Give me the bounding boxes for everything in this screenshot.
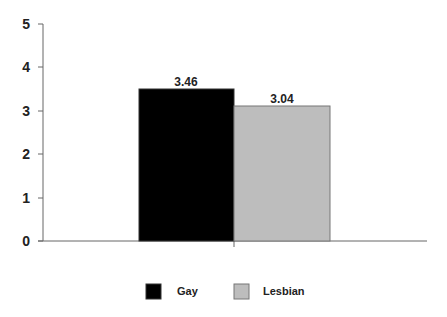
- bar-chart: 0 1 2 3 4 5 3.46 3.04 Gay Lesbian: [0, 0, 447, 317]
- bar-lesbian: [234, 106, 330, 241]
- y-tick-label: 4: [22, 59, 30, 75]
- value-label-lesbian: 3.04: [270, 92, 294, 106]
- y-tick-label: 5: [22, 16, 30, 32]
- bar-gay: [139, 89, 234, 241]
- y-tick-label: 2: [22, 146, 30, 162]
- y-tick-label: 1: [22, 190, 30, 206]
- legend-swatch-lesbian: [234, 284, 249, 299]
- y-tick-label: 0: [22, 233, 30, 249]
- value-label-gay: 3.46: [174, 75, 198, 89]
- y-tick-label: 3: [22, 103, 30, 119]
- legend-label-lesbian: Lesbian: [263, 285, 305, 297]
- legend: Gay Lesbian: [146, 284, 305, 299]
- legend-swatch-gay: [146, 284, 161, 299]
- legend-label-gay: Gay: [177, 285, 199, 297]
- y-ticks: 0 1 2 3 4 5: [22, 16, 43, 249]
